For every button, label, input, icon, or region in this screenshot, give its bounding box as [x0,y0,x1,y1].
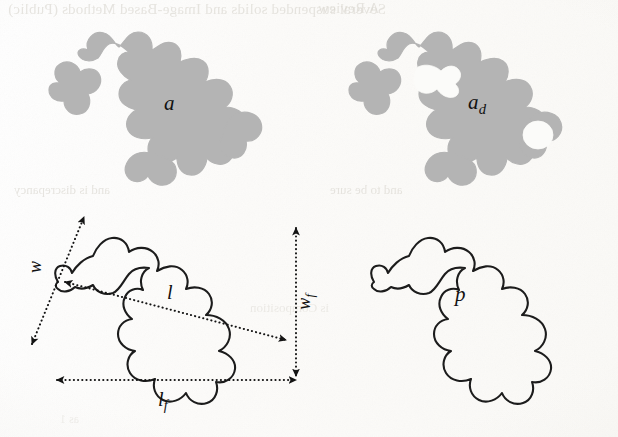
label-dimension-lf: lf [158,389,168,413]
label-lf-subscript: f [164,398,168,413]
label-area-ad: ad [468,92,486,116]
figure-canvas: Several suspended solids and Image-Based… [0,0,618,437]
dimension-line-l [65,282,286,340]
blob-outline-dimensioned [55,238,235,404]
label-area-a: a [164,93,175,114]
blob-shape-a [78,32,246,175]
label-dimension-wf: wf [295,294,317,310]
label-lf-base: l [158,388,164,410]
blob-shape-ad [378,32,546,175]
blob-outline-perimeter [371,238,551,404]
label-wf-subscript: f [303,294,317,298]
panel-outline-blob-with-dimensions [8,196,328,432]
label-ad-base: a [468,90,479,114]
panel-outline-blob-perimeter [338,196,613,426]
label-wf-base: w [294,298,314,310]
blob-lobe-left [349,62,401,114]
label-ad-subscript: d [479,101,486,117]
blob-hole-lower [523,121,553,149]
label-dimension-l: l [167,282,173,302]
label-perimeter-p: p [455,284,466,305]
label-dimension-w: w [26,261,44,273]
blob-lobe-left [49,62,101,114]
